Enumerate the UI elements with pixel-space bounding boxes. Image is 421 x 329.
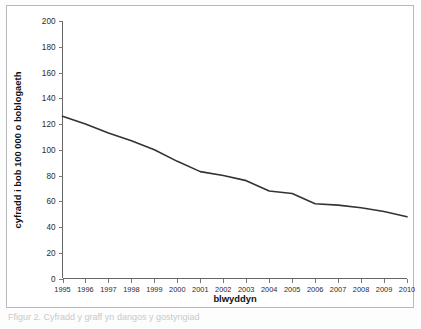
y-tick-label: 120 bbox=[42, 120, 56, 129]
y-tick-label: 100 bbox=[42, 146, 56, 155]
x-tick-label: 2007 bbox=[330, 285, 346, 294]
y-axis-title: cyfradd i bob 100 000 o boblogaeth bbox=[12, 71, 23, 228]
y-tick-group: 020406080100120140160180200 bbox=[42, 17, 63, 284]
series-group bbox=[63, 116, 408, 216]
y-tick-label: 180 bbox=[42, 43, 56, 52]
x-tick-label: 1997 bbox=[100, 285, 116, 294]
x-tick-label: 2000 bbox=[169, 285, 185, 294]
figure-caption-strip: Ffigur 2. Cyfradd y graff yn dangos y go… bbox=[8, 313, 308, 327]
x-tick-label: 2006 bbox=[307, 285, 323, 294]
y-tick-label: 0 bbox=[51, 275, 56, 284]
screenshot-root: 020406080100120140160180200 199519961997… bbox=[0, 0, 421, 329]
x-tick-group: 1995199619971998199920002001200220032004… bbox=[54, 279, 415, 294]
chart-svg: 020406080100120140160180200 199519961997… bbox=[7, 6, 415, 309]
figure-caption: Ffigur 2. Cyfradd y graff yn dangos y go… bbox=[8, 313, 308, 323]
y-tick-label: 200 bbox=[42, 17, 56, 26]
y-tick-label: 20 bbox=[46, 249, 56, 258]
y-tick-label: 140 bbox=[42, 94, 56, 103]
x-tick-label: 2008 bbox=[353, 285, 369, 294]
x-tick-label: 2010 bbox=[399, 285, 415, 294]
x-tick-label: 1998 bbox=[123, 285, 139, 294]
x-tick-label: 2005 bbox=[284, 285, 300, 294]
y-tick-label: 60 bbox=[46, 197, 56, 206]
x-tick-label: 2009 bbox=[376, 285, 392, 294]
figure-frame: 020406080100120140160180200 199519961997… bbox=[6, 5, 414, 308]
x-tick-label: 2001 bbox=[192, 285, 208, 294]
y-tick-label: 160 bbox=[42, 69, 56, 78]
x-tick-label: 1999 bbox=[146, 285, 162, 294]
x-tick-label: 1995 bbox=[54, 285, 70, 294]
y-tick-label: 40 bbox=[46, 223, 56, 232]
x-tick-label: 2004 bbox=[261, 285, 277, 294]
y-tick-label: 80 bbox=[46, 172, 56, 181]
x-tick-label: 1996 bbox=[77, 285, 93, 294]
series-line-cyfradd bbox=[63, 116, 408, 216]
x-axis-title: blwyddyn bbox=[213, 293, 257, 304]
line-chart: 020406080100120140160180200 199519961997… bbox=[7, 6, 415, 309]
